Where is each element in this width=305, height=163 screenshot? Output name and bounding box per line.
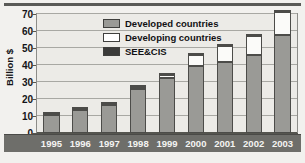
- bar-segment-developing: [159, 75, 175, 78]
- bar-segment-developed: [246, 55, 262, 133]
- bar-segment-see: [72, 107, 88, 109]
- bar-segment-developed: [188, 66, 204, 133]
- bar-segment-developed: [72, 110, 88, 133]
- x-tick-label: 1998: [124, 138, 152, 149]
- legend-item-developed: Developed countries: [103, 17, 253, 30]
- x-tick-label: 1996: [66, 138, 94, 149]
- legend-item-see-cis: SEE&CIS: [103, 45, 253, 58]
- legend: Developed countries Developing countries…: [103, 17, 253, 59]
- bar-segment-see: [101, 102, 117, 104]
- x-tick-label: 1995: [37, 138, 65, 149]
- y-tick-label: 70: [9, 10, 33, 19]
- x-axis-band: 199519961997199819992000200120022003: [4, 134, 301, 152]
- y-tick-label: 50: [9, 44, 33, 53]
- legend-item-developing: Developing countries: [103, 31, 253, 44]
- y-tick-label: 30: [9, 78, 33, 87]
- bar-segment-developing: [274, 12, 290, 35]
- y-tick-label: 60: [9, 27, 33, 36]
- x-tick-label: 1999: [153, 138, 181, 149]
- bar: [72, 14, 88, 133]
- legend-swatch-see-cis-icon: [103, 47, 120, 56]
- bar-segment-developed: [130, 89, 146, 133]
- bar-segment-see: [130, 85, 146, 87]
- x-tick-label: 2001: [211, 138, 239, 149]
- legend-swatch-developed-icon: [103, 19, 120, 28]
- x-tick-label: 2002: [240, 138, 268, 149]
- y-tick-label: 40: [9, 61, 33, 70]
- legend-label-developing: Developing countries: [125, 33, 222, 43]
- y-tick-label: 10: [9, 112, 33, 121]
- legend-label-developed: Developed countries: [125, 19, 218, 29]
- x-tick-label: 2000: [182, 138, 210, 149]
- plot-area: Developed countries Developing countries…: [36, 13, 298, 134]
- x-tick-label: 2003: [269, 138, 297, 149]
- bar-segment-see: [274, 10, 290, 12]
- legend-label-see-cis: SEE&CIS: [125, 47, 167, 57]
- legend-swatch-developing-icon: [103, 33, 120, 42]
- bar-segment-developed: [159, 78, 175, 133]
- bar-segment-developed: [101, 105, 117, 133]
- bar-segment-see: [43, 112, 59, 114]
- bar-segment-developed: [274, 35, 290, 133]
- figure-container: Billion $ 010203040506070 Developed coun…: [0, 0, 305, 163]
- bar-segment-see: [159, 73, 175, 75]
- bar-segment-developed: [217, 62, 233, 133]
- bar: [43, 14, 59, 133]
- bar-segment-developed: [43, 115, 59, 133]
- y-tick-label: 20: [9, 95, 33, 104]
- x-tick-label: 1997: [95, 138, 123, 149]
- bar: [274, 14, 290, 133]
